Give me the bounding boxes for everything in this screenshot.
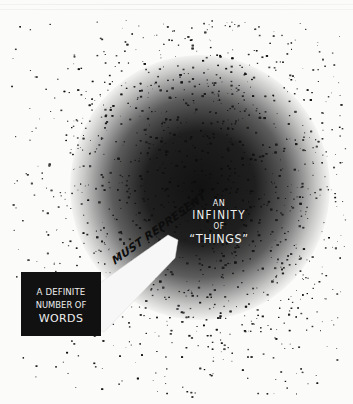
definite-number-of-words-label: A DEFINITE NUMBER OF WORDS bbox=[21, 286, 101, 325]
label-line-things: “THINGS” bbox=[174, 233, 264, 245]
label-line-words: WORDS bbox=[21, 312, 101, 325]
definite-words-box: A DEFINITE NUMBER OF WORDS bbox=[21, 272, 101, 336]
label-line-a-definite: A DEFINITE bbox=[21, 286, 101, 299]
label-line-infinity: INFINITY bbox=[174, 209, 264, 221]
words-and-things-illustration: MUST REPRESENT AN INFINITY OF “THINGS” A… bbox=[0, 0, 353, 404]
label-line-number-of: NUMBER OF bbox=[21, 299, 101, 312]
infinity-of-things-label: AN INFINITY OF “THINGS” bbox=[174, 197, 264, 245]
